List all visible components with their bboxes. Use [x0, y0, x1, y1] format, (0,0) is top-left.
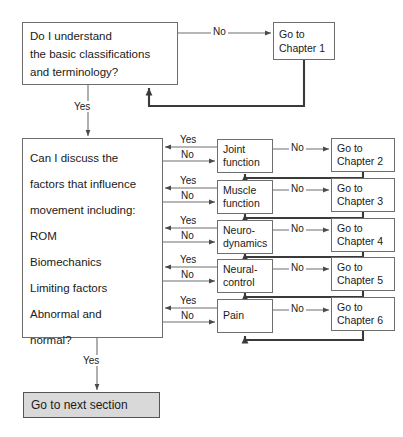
node-go-to-chapter-2[interactable]: Go to Chapter 2	[331, 138, 395, 172]
node-chapter-5-line-1: Go to	[337, 261, 389, 275]
node-topic-2-line-2: function	[223, 197, 267, 211]
node-chapter-4-line-2: Chapter 4	[337, 235, 389, 249]
node-next-section-label: Go to next section	[31, 398, 154, 412]
node-understand-line-3: and terminology?	[30, 63, 172, 81]
edge-label-row2-topic-no: No	[289, 183, 306, 194]
edge-label-row5-topic-no: No	[289, 303, 306, 314]
edge-label-discuss-yes: Yes	[81, 355, 101, 366]
node-chapter1-line-1: Go to	[279, 27, 329, 41]
node-understand-line-2: the basic classifications	[30, 45, 172, 63]
edge-label-row1-topic-no: No	[289, 142, 306, 153]
node-go-to-chapter-4[interactable]: Go to Chapter 4	[331, 218, 395, 252]
node-understand-question[interactable]: Do I understand the basic classification…	[22, 22, 178, 85]
node-topic-5-line-1: Pain	[223, 309, 267, 323]
edge-label-row2-no: No	[179, 190, 196, 201]
node-topic-neural-control[interactable]: Neural- control	[217, 259, 273, 293]
node-discuss-line-2: factors that influence	[30, 171, 157, 197]
node-discuss-line-1: Can I discuss the	[30, 145, 157, 171]
node-go-to-chapter-5[interactable]: Go to Chapter 5	[331, 257, 395, 291]
edge-label-row4-topic-no: No	[289, 262, 306, 273]
node-chapter-6-line-2: Chapter 6	[337, 314, 389, 328]
edge-label-row1-no: No	[179, 149, 196, 160]
node-go-to-chapter-1[interactable]: Go to Chapter 1	[273, 22, 335, 60]
node-topic-3-line-2: dynamics	[223, 237, 267, 251]
node-chapter-5-line-2: Chapter 5	[337, 274, 389, 288]
node-topic-neurodynamics[interactable]: Neuro- dynamics	[217, 220, 273, 254]
node-discuss-line-4: ROM	[30, 223, 157, 249]
node-topic-1-line-2: function	[223, 156, 267, 170]
node-topic-joint-function[interactable]: Joint function	[217, 139, 273, 173]
edge-label-row4-yes: Yes	[178, 254, 198, 265]
node-go-to-chapter-3[interactable]: Go to Chapter 3	[331, 178, 395, 212]
node-chapter-6-line-1: Go to	[337, 301, 389, 315]
node-chapter-4-line-1: Go to	[337, 222, 389, 236]
node-discuss-line-8: normal?	[30, 327, 157, 353]
edge-label-row4-no: No	[179, 269, 196, 280]
node-discuss-question[interactable]: Can I discuss the factors that influence…	[22, 138, 163, 338]
node-chapter-2-line-2: Chapter 2	[337, 155, 389, 169]
edge-label-row1-yes: Yes	[178, 134, 198, 145]
node-discuss-line-5: Biomechanics	[30, 249, 157, 275]
edge-label-row5-yes: Yes	[178, 295, 198, 306]
node-topic-3-line-1: Neuro-	[223, 224, 267, 238]
node-chapter-2-line-1: Go to	[337, 142, 389, 156]
edge-label-row3-yes: Yes	[178, 215, 198, 226]
node-discuss-line-6: Limiting factors	[30, 275, 157, 301]
node-chapter-3-line-1: Go to	[337, 182, 389, 196]
node-topic-pain[interactable]: Pain	[217, 299, 273, 333]
node-topic-2-line-1: Muscle	[223, 184, 267, 198]
node-discuss-line-3: movement including:	[30, 197, 157, 223]
node-go-to-next-section[interactable]: Go to next section	[23, 392, 160, 418]
node-chapter1-line-2: Chapter 1	[279, 41, 329, 55]
node-discuss-line-7: Abnormal and	[30, 301, 157, 327]
edge-label-row5-no: No	[179, 310, 196, 321]
node-chapter-3-line-2: Chapter 3	[337, 195, 389, 209]
node-understand-line-1: Do I understand	[30, 27, 172, 45]
node-topic-muscle-function[interactable]: Muscle function	[217, 180, 273, 214]
edge-label-understand-no: No	[211, 26, 228, 37]
edge-label-row2-yes: Yes	[178, 175, 198, 186]
edge-label-understand-yes: Yes	[72, 101, 92, 112]
node-topic-4-line-2: control	[223, 276, 267, 290]
node-topic-1-line-1: Joint	[223, 143, 267, 157]
edge-label-row3-topic-no: No	[289, 223, 306, 234]
edge-label-row3-no: No	[179, 230, 196, 241]
node-go-to-chapter-6[interactable]: Go to Chapter 6	[331, 297, 395, 331]
node-topic-4-line-1: Neural-	[223, 263, 267, 277]
